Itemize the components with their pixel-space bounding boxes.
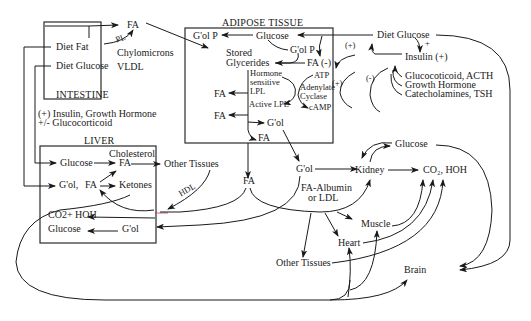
liver-compartment: LIVER Glucose Cholesterol FA G'ol, FA Ke… bbox=[40, 135, 156, 243]
fa-released-3: FA bbox=[258, 132, 271, 143]
liver-regulators-2: +/- Glucocorticoid bbox=[38, 117, 112, 128]
active-lpl-label: Active LPL bbox=[249, 99, 289, 109]
plus-small-label: + bbox=[425, 38, 430, 48]
liver-co2-hoh: CO2+ HOH bbox=[48, 209, 97, 220]
diet-glucose-right-label: Diet Glucose bbox=[377, 29, 430, 40]
or-ldl-label: or LDL bbox=[308, 192, 338, 203]
gol-p-label: G'ol P bbox=[193, 30, 218, 41]
gluco-line-3: Catecholamines, TSH bbox=[405, 88, 493, 99]
diet-glucose-label: Diet Glucose bbox=[56, 60, 109, 71]
fa-top-label: FA bbox=[127, 19, 140, 30]
intestine-title: INTESTINE bbox=[56, 89, 109, 100]
intestine-compartment: INTESTINE Diet Fat Diet Glucose bbox=[44, 22, 109, 100]
liver-fa: FA bbox=[119, 157, 132, 168]
diet-fat-label: Diet Fat bbox=[56, 41, 89, 52]
liver-title: LIVER bbox=[84, 135, 115, 146]
camp-label: cAMP bbox=[309, 102, 331, 112]
muscle-label: Muscle bbox=[361, 218, 391, 229]
co2-hoh-right-label: CO₂, HOH bbox=[423, 164, 467, 175]
fa-released-1: FA bbox=[214, 88, 227, 99]
adipose-compartment: ADIPOSE TISSUE G'ol P Glucose G'ol P Sto… bbox=[185, 17, 335, 143]
other-tissues-bottom: Other Tissues bbox=[276, 257, 331, 268]
liver-gol-2: G'ol bbox=[122, 223, 139, 234]
adipose-gol-out-arrow bbox=[283, 130, 299, 161]
vldl-label: VLDL bbox=[117, 61, 144, 72]
other-tissues-top: Other Tissues bbox=[164, 158, 219, 169]
plus-paren-1: (+) bbox=[345, 40, 356, 50]
atp-label: ATP bbox=[314, 70, 329, 80]
liver-cholesterol: Cholesterol bbox=[109, 148, 155, 159]
insulin-label: Insulin (+) bbox=[405, 51, 448, 63]
gol-released: G'ol bbox=[267, 117, 284, 128]
cyclase-label: Cyclase bbox=[300, 91, 327, 101]
adipose-title: ADIPOSE TISSUE bbox=[222, 17, 303, 28]
chylomicrons-label: Chylomicrons bbox=[117, 47, 174, 58]
kidney-label: Kidney bbox=[355, 164, 384, 175]
brain-label: Brain bbox=[404, 264, 426, 275]
liver-gol: G'ol, bbox=[59, 179, 78, 190]
liver-fa-2: FA bbox=[85, 179, 98, 190]
lpl-label: LPL bbox=[250, 86, 265, 96]
glycerides-label: Glycerides bbox=[226, 57, 269, 68]
liver-glucose-2: Glucose bbox=[48, 223, 81, 234]
metabolic-pathway-diagram: INTESTINE Diet Fat Diet Glucose FA PL Ch… bbox=[0, 0, 531, 321]
heart-label: Heart bbox=[338, 237, 360, 248]
gol-p-label-2: G'ol P bbox=[290, 44, 315, 55]
gol-mid-label: G'ol bbox=[296, 163, 313, 174]
glucose-label: Glucose bbox=[256, 30, 289, 41]
hdl-label: HDL bbox=[177, 181, 197, 198]
fa-mid-label: FA bbox=[243, 175, 256, 186]
fa-released-2: FA bbox=[214, 110, 227, 121]
minus-paren-1: (-) bbox=[366, 73, 375, 83]
glucose-right-label: Glucose bbox=[395, 138, 428, 149]
liver-glucose: Glucose bbox=[60, 157, 93, 168]
fa-minus-label: FA (-) bbox=[307, 57, 331, 69]
liver-ketones: Ketones bbox=[119, 179, 152, 190]
